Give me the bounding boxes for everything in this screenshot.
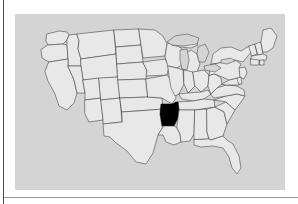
state-oregon (41, 44, 68, 62)
state-southdakota (116, 45, 143, 64)
state-kansas (118, 79, 148, 98)
page-root (0, 0, 298, 204)
us-map-svg (15, 14, 285, 190)
left-vertical-rule (3, 0, 4, 204)
state-colorado (99, 77, 120, 100)
lake-michigan (180, 49, 189, 70)
state-maine (261, 28, 277, 52)
state-minnesota (139, 29, 167, 58)
state-washington (46, 31, 69, 45)
state-rhodeisland (260, 60, 264, 65)
state-northdakota (114, 29, 141, 47)
state-utah (83, 78, 101, 100)
lake-huron (197, 44, 209, 62)
state-newmexico (101, 98, 122, 124)
lake-superior (167, 34, 199, 46)
state-florida (194, 136, 241, 174)
bottom-horizontal-rule (4, 197, 298, 198)
state-newjersey (239, 67, 247, 79)
state-arizona (85, 98, 103, 122)
state-arkansas-highlighted (160, 102, 179, 126)
us-map-plate (15, 14, 285, 190)
state-connecticut (251, 59, 259, 65)
state-ohio (193, 70, 209, 92)
state-nebraska (117, 62, 147, 80)
state-iowa (143, 59, 169, 76)
